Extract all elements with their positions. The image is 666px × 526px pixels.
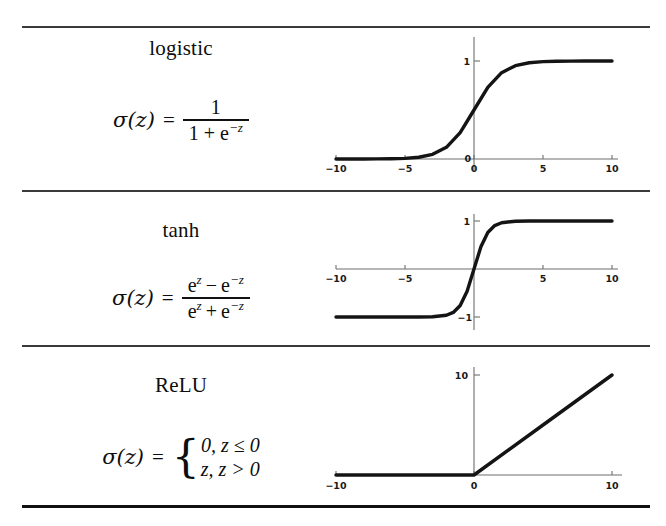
figure-page: logistic σ(z) = 1 1 + e−z [0,0,666,526]
rule-after-logistic [22,190,650,192]
svg-text:0: 0 [471,480,478,491]
svg-text:−5: −5 [398,163,413,174]
function-name-logistic: logistic [22,36,340,61]
case-line-1: 0, z ≤ 0 [201,433,260,457]
chart-tanh: −10 −5 5 10 1 −1 [322,202,650,352]
den-operator: + [206,300,217,322]
svg-text:−10: −10 [325,163,347,174]
svg-text:5: 5 [540,163,547,174]
fraction-numerator: 1 [205,95,227,119]
num-term-a-exponent: z [197,272,202,287]
svg-text:10: 10 [605,163,619,174]
formula-lhs: σ(z) [112,286,154,310]
fraction-denominator: ez+e−z [182,299,250,323]
chart-logistic: −10 −5 0 5 10 1 0 [322,12,650,180]
den-term-b: e [221,300,230,322]
svg-text:−1: −1 [457,312,472,323]
num-term-b-exponent: −z [230,272,244,287]
den-term-a: e [188,300,197,322]
formula-lhs: σ(z) [102,445,144,469]
denominator-base: 1 + e [189,122,229,144]
svg-text:−10: −10 [325,480,347,491]
formula-equals: = [152,445,164,470]
den-term-b-exponent: −z [230,298,244,313]
num-term-a: e [188,274,197,296]
fraction: ez−e−z ez+e−z [182,273,250,323]
piecewise: { 0, z ≤ 0 z, z > 0 [172,433,260,482]
formula-relu: σ(z) = { 0, z ≤ 0 z, z > 0 [22,433,340,482]
case-line-2: z, z > 0 [201,457,260,481]
formula-equals: = [162,286,174,311]
chart-relu: −10 0 10 10 [322,353,650,505]
svg-text:10: 10 [605,273,619,284]
rule-bottom [22,505,650,508]
denominator-exponent: −z [229,120,243,135]
formula-lhs: σ(z) [113,108,155,132]
fraction-numerator: ez−e−z [182,273,250,297]
svg-text:0: 0 [471,163,478,174]
formula-tanh: σ(z) = ez−e−z ez+e−z [22,273,340,323]
svg-text:10: 10 [605,480,619,491]
svg-text:−10: −10 [325,273,347,284]
svg-text:1: 1 [463,56,470,67]
svg-text:0: 0 [464,153,471,164]
svg-text:−5: −5 [398,273,413,284]
fraction: 1 1 + e−z [183,95,249,145]
brace-glyph: { [172,439,200,474]
num-operator: − [206,274,217,296]
fraction-denominator: 1 + e−z [183,121,249,145]
cases: 0, z ≤ 0 z, z > 0 [201,433,260,482]
den-term-a-exponent: z [197,298,202,313]
svg-text:10: 10 [455,370,469,381]
function-name-relu: ReLU [22,373,340,398]
formula-logistic: σ(z) = 1 1 + e−z [22,95,340,145]
num-term-b: e [221,274,230,296]
formula-equals: = [163,108,175,133]
svg-text:5: 5 [540,273,547,284]
function-name-tanh: tanh [22,218,340,243]
svg-text:1: 1 [463,216,470,227]
